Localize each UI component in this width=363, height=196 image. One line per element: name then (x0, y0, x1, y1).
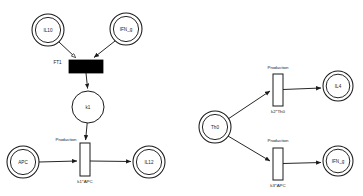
arc-il10-to-ft1 (59, 42, 76, 58)
place-il12[interactable]: IL12 (133, 146, 165, 178)
place-th0[interactable]: Th0 (199, 111, 231, 143)
arc-th0-to-production-top (228, 91, 270, 119)
place-k1[interactable]: k1 (72, 91, 104, 123)
place-apc[interactable]: APC (7, 146, 39, 178)
arc-k1-to-production1 (86, 123, 88, 140)
arc-production1-to-il12 (90, 161, 131, 162)
transition-ft1-label: FT1 (53, 60, 62, 65)
arc-apc-to-production1 (39, 161, 77, 162)
place-il10[interactable]: IL10 (32, 14, 64, 46)
place-il10-label: IL10 (44, 28, 53, 33)
transition-production-left-rate: k1*APC (77, 179, 92, 184)
place-ifng-left-label: IFN_g (120, 27, 133, 32)
transition-production-top-rate: k2*Th0 (271, 109, 285, 114)
transition-production-bottom-rate: k3*APC (270, 183, 285, 188)
diagram-canvas: IL10 IFN_g FT1 k1 APC IL12 (0, 0, 363, 196)
place-il4-label: IL4 (335, 84, 342, 89)
arc-production-bottom-to-ifng (283, 163, 321, 164)
left-network: IL10 IFN_g FT1 k1 APC IL12 (7, 13, 165, 184)
arc-th0-to-production-bottom (228, 136, 270, 161)
place-il12-label: IL12 (145, 160, 154, 165)
place-il4[interactable]: IL4 (323, 71, 353, 101)
place-ifng-right[interactable]: IFN_g (323, 146, 353, 176)
place-k1-label: k1 (86, 105, 91, 110)
right-network: Th0 IL4 IFN_g Production k2*Th0 Producti… (199, 65, 353, 188)
arc-production-top-to-il4 (283, 88, 321, 90)
transition-ft1[interactable]: FT1 (53, 60, 103, 73)
arc-ft1-to-k1 (86, 73, 88, 89)
place-ifng-right-label: IFN_g (332, 159, 345, 164)
transition-production-left-label: Production (56, 137, 78, 142)
arc-ifng-to-ft1 (94, 41, 115, 58)
place-th0-label: Th0 (211, 125, 219, 130)
transition-production-top-label: Production (268, 65, 290, 70)
place-ifng-left[interactable]: IFN_g (110, 13, 142, 45)
place-apc-label: APC (18, 160, 28, 165)
transition-production-bottom-label: Production (268, 138, 290, 143)
